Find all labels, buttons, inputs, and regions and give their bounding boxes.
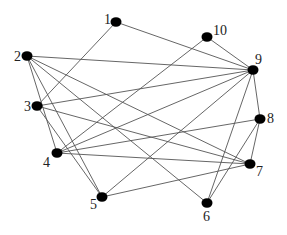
node-10: [202, 32, 213, 42]
edge-4-8: [57, 119, 260, 153]
node-7: [245, 159, 256, 169]
node-label-3: 3: [24, 99, 31, 114]
edge-4-10: [57, 37, 207, 153]
node-4: [52, 148, 63, 158]
edge-3-5: [37, 106, 102, 197]
node-label-7: 7: [256, 164, 263, 179]
graph-diagram: 12345678910: [0, 0, 287, 235]
edge-8-9: [253, 70, 260, 119]
edge-5-9: [102, 70, 253, 197]
node-label-5: 5: [90, 197, 97, 212]
node-2: [22, 51, 33, 61]
node-3: [32, 101, 43, 111]
labels-layer: 12345678910: [14, 12, 274, 224]
node-label-2: 2: [14, 49, 21, 64]
edge-2-7: [27, 56, 250, 164]
edge-3-9: [37, 70, 253, 106]
node-5: [97, 192, 108, 202]
edges-layer: [27, 22, 260, 203]
node-label-9: 9: [255, 52, 262, 67]
edge-7-8: [250, 119, 260, 164]
node-label-1: 1: [104, 12, 111, 27]
node-1: [111, 17, 122, 27]
edge-9-10: [207, 37, 253, 70]
node-label-10: 10: [213, 23, 227, 38]
edge-4-9: [57, 70, 253, 153]
edge-6-9: [207, 70, 253, 203]
edge-5-7: [102, 164, 250, 197]
node-label-6: 6: [203, 209, 210, 224]
node-label-4: 4: [43, 155, 50, 170]
node-label-8: 8: [267, 111, 274, 126]
node-6: [202, 198, 213, 208]
node-8: [255, 114, 266, 124]
